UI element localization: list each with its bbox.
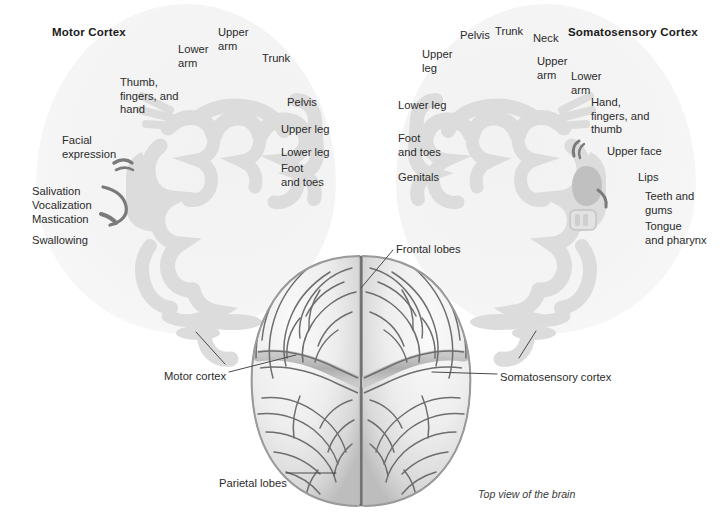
somatosensory-region-label-0: Pelvis bbox=[460, 29, 490, 43]
leader-somatosensory-to-slice bbox=[519, 331, 536, 358]
somatosensory-region-label-3: Upper leg bbox=[422, 48, 452, 75]
motor-region-label-8: Foot and toes bbox=[281, 162, 324, 189]
callout-leader-lines bbox=[0, 0, 721, 521]
leader-frontal-lobes bbox=[361, 250, 393, 288]
leader-motor-cortex-to-slice bbox=[196, 332, 225, 364]
motor-region-label-7: Lower leg bbox=[281, 146, 330, 160]
callout-somatosensory-cortex: Somatosensory cortex bbox=[500, 371, 611, 383]
motor-region-label-12: Swallowing bbox=[32, 234, 88, 248]
somatosensory-cortex-dark-accents bbox=[573, 141, 606, 207]
somatosensory-region-label-12: Teeth and gums bbox=[645, 190, 694, 217]
motor-region-label-10: Vocalization bbox=[32, 199, 92, 213]
cortex-cross-sections bbox=[0, 0, 721, 521]
somatosensory-region-label-5: Lower arm bbox=[571, 70, 601, 97]
motor-region-label-9: Salivation bbox=[32, 185, 81, 199]
somatosensory-region-label-11: Lips bbox=[638, 171, 659, 185]
somatosensory-region-label-1: Trunk bbox=[495, 25, 523, 39]
motor-region-label-5: Upper leg bbox=[281, 123, 330, 137]
motor-region-label-4: Pelvis bbox=[287, 96, 317, 110]
motor-region-label-2: Trunk bbox=[262, 52, 290, 66]
somatosensory-region-label-8: Foot and toes bbox=[398, 132, 441, 159]
leader-motor-cortex-to-brain bbox=[229, 355, 296, 372]
somatosensory-region-label-10: Genitals bbox=[398, 171, 439, 185]
leader-somatosensory-to-brain bbox=[432, 372, 497, 374]
motor-region-label-6: Facial expression bbox=[62, 134, 116, 161]
somatosensory-region-label-9: Upper face bbox=[607, 145, 662, 159]
brain-view-caption: Top view of the brain bbox=[478, 488, 575, 500]
motor-region-label-1: Lower arm bbox=[178, 43, 208, 70]
cortical-homunculus-figure: Motor Cortex Somatosensory Cortex Upper … bbox=[0, 0, 721, 521]
callout-motor-cortex: Motor cortex bbox=[164, 370, 226, 382]
motor-region-label-11: Mastication bbox=[32, 213, 89, 227]
somatosensory-region-label-4: Upper arm bbox=[537, 55, 567, 82]
somatosensory-region-label-2: Neck bbox=[533, 32, 559, 46]
somatosensory-region-label-13: Tongue and pharynx bbox=[645, 220, 707, 247]
motor-cortex-title: Motor Cortex bbox=[52, 26, 126, 38]
somatosensory-cortex-strip bbox=[415, 96, 606, 359]
somatosensory-region-label-6: Lower leg bbox=[398, 99, 447, 113]
motor-region-label-0: Upper arm bbox=[218, 26, 248, 53]
motor-cortex-dark-accents bbox=[101, 160, 133, 225]
brain-top-view-illustration bbox=[0, 0, 721, 521]
somatosensory-cortex-title: Somatosensory Cortex bbox=[568, 26, 698, 38]
motor-region-label-3: Thumb, fingers, and hand bbox=[120, 76, 178, 117]
callout-parietal-lobes: Parietal lobes bbox=[219, 477, 287, 489]
callout-frontal-lobes: Frontal lobes bbox=[396, 243, 461, 255]
somatosensory-region-label-7: Hand, fingers, and thumb bbox=[591, 96, 649, 137]
